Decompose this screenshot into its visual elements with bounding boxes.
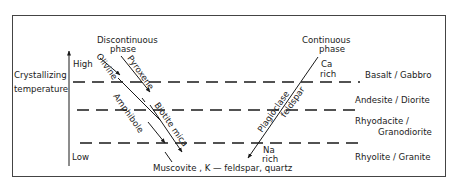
pyroxene-biotite-dash (142, 98, 145, 102)
mineral-biotite-mica: Biotite mica (152, 100, 190, 148)
mineral-amphibole: Amphibole (111, 91, 146, 134)
rock-type-andesite-diorite: Andesite / Diorite (355, 95, 430, 105)
axis-high-label: High (73, 59, 93, 69)
discontinuous-header-line2: phase (110, 44, 136, 54)
ca-rich-line1: Ca (321, 59, 332, 69)
amphibole-muscovite-dash (165, 152, 172, 162)
axis-label-line2: temperature (14, 84, 68, 94)
mineral-olivine: Olivine (94, 51, 119, 81)
axis-label-line1: Crystallizing (14, 70, 67, 80)
ca-rich-line2: rich (320, 69, 336, 79)
rock-type-basalt-gabbro: Basalt / Gabbro (365, 70, 431, 80)
mineral-pyroxene: Pyroxene (125, 53, 156, 91)
bowen-reaction-series-diagram: Crystallizing temperature High Low Disco… (0, 0, 456, 187)
continuous-header-line2: phase (319, 44, 345, 54)
temperature-boundaries (73, 82, 360, 143)
rock-type-rhyodacite: Rhyodacite / (355, 116, 409, 126)
axis-low-label: Low (72, 152, 89, 162)
rock-type-granodiorite: Granodiorite (378, 127, 432, 137)
rock-type-rhyolite-granite: Rhyolite / Granite (355, 152, 431, 162)
amphibole-arrow (148, 122, 165, 143)
late-minerals-label: Muscovite , K — feldspar, quartz (153, 163, 293, 173)
